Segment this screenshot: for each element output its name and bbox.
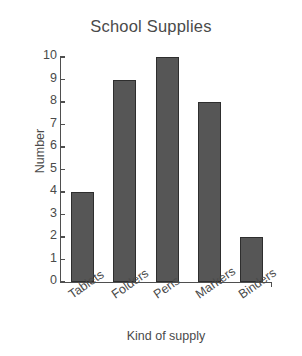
y-axis-tick: 9	[60, 79, 65, 80]
y-axis-tick-label: 0	[50, 273, 57, 287]
y-axis-tick: 0	[60, 281, 65, 282]
y-axis-tick-mark	[60, 146, 65, 147]
y-axis-tick-mark	[60, 124, 65, 125]
bar	[113, 80, 136, 283]
chart-title: School Supplies	[0, 17, 302, 36]
plot-area: 012345678910	[60, 57, 272, 282]
bar-chart: School Supplies Number 012345678910 Tabl…	[0, 0, 302, 356]
y-axis-tick: 7	[60, 124, 65, 125]
bar	[198, 102, 221, 282]
bar	[71, 192, 94, 282]
y-axis-tick: 8	[60, 101, 65, 102]
y-axis-tick-label: 8	[50, 93, 57, 107]
y-axis-tick-mark	[60, 236, 65, 237]
y-axis-tick-label: 9	[50, 71, 57, 85]
y-axis-tick-label: 3	[50, 206, 57, 220]
y-axis-tick: 1	[60, 259, 65, 260]
y-axis-tick-label: 6	[50, 138, 57, 152]
y-axis-tick-mark	[60, 169, 65, 170]
bar	[156, 57, 179, 282]
y-axis-tick-mark	[60, 281, 65, 282]
x-axis-right-cap-tick	[271, 282, 272, 287]
y-axis-tick-label: 1	[50, 251, 57, 265]
y-axis-tick-mark	[60, 79, 65, 80]
y-axis-tick-label: 7	[50, 116, 57, 130]
y-axis-tick-mark	[60, 191, 65, 192]
y-axis-tick-mark	[60, 56, 65, 57]
y-axis-tick-mark	[60, 259, 65, 260]
x-axis-title: Kind of supply	[60, 329, 272, 343]
y-axis-tick: 6	[60, 146, 65, 147]
y-axis-title: Number	[30, 121, 50, 181]
y-axis-tick: 2	[60, 236, 65, 237]
y-axis-tick: 4	[60, 191, 65, 192]
y-axis-tick-label: 5	[50, 161, 57, 175]
y-axis-tick-label: 4	[50, 183, 57, 197]
y-axis-tick: 3	[60, 214, 65, 215]
y-axis-tick-label: 10	[43, 48, 57, 62]
y-axis-tick: 10	[60, 56, 65, 57]
y-axis-tick: 5	[60, 169, 65, 170]
y-axis-tick-mark	[60, 101, 65, 102]
y-axis-tick-label: 2	[50, 228, 57, 242]
y-axis-tick-mark	[60, 214, 65, 215]
